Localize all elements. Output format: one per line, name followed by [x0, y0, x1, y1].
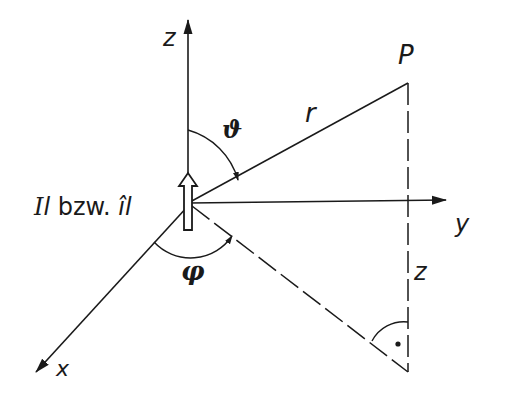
height-z-label: z [413, 258, 428, 286]
current-element-arrow-icon [179, 173, 197, 230]
diagram-canvas: z y x P r ϑ φ z Il bzw. îl [0, 0, 506, 396]
z-axis-label: z [162, 24, 177, 52]
right-angle-dot [395, 341, 400, 346]
right-angle-arc [372, 322, 408, 341]
point-P-label: P [398, 40, 414, 70]
radius-label: r [305, 98, 318, 128]
projection-dashed-line [192, 206, 408, 372]
phi-arc [154, 236, 232, 258]
theta-label: ϑ [222, 115, 242, 144]
y-axis-label: y [454, 210, 470, 238]
phi-label: φ [181, 256, 205, 286]
x-axis-label: x [55, 356, 70, 381]
coordinate-diagram: z y x P r ϑ φ z Il bzw. îl [0, 0, 506, 396]
x-axis [36, 206, 188, 372]
source-label: Il bzw. îl [33, 193, 132, 221]
